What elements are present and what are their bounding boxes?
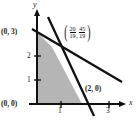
frac-open-paren: (	[64, 25, 67, 40]
x-axis-label: x	[129, 99, 133, 107]
point-label-vertex-fraction: ( 20 19 , 45 19 )	[63, 25, 92, 40]
plot-canvas	[0, 0, 138, 122]
point-label-0-0: (0, 0)	[1, 100, 17, 108]
y-axis-label: y	[33, 1, 37, 9]
y-tick-label-2: 2	[27, 52, 31, 60]
frac-y-denominator: 19	[79, 32, 85, 39]
y-axis-arrow	[34, 9, 40, 16]
x-axis-arrow	[119, 101, 126, 107]
math-figure-feasible-region: y x 1 3 1 2 (0, 3) (0, 0) (2, 0) ( 20 19…	[0, 0, 138, 122]
frac-x-coordinate: 20 19	[69, 26, 76, 40]
y-tick-label-1: 1	[27, 76, 31, 84]
x-tick-label-3: 3	[106, 107, 110, 115]
frac-x-denominator: 19	[70, 32, 76, 39]
x-tick-label-1: 1	[58, 107, 62, 115]
frac-y-coordinate: 45 19	[79, 26, 86, 40]
point-label-2-0: (2, 0)	[85, 85, 101, 93]
point-label-0-3: (0, 3)	[1, 28, 17, 36]
frac-close-paren: )	[87, 25, 90, 40]
